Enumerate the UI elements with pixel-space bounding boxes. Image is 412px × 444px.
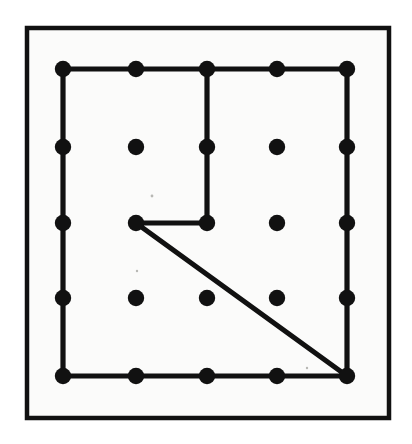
peg-r3c3[interactable] (199, 215, 215, 231)
speck-1 (151, 195, 154, 198)
peg-r1c5[interactable] (339, 61, 355, 77)
peg-r4c2[interactable] (128, 290, 144, 306)
speck-3 (306, 367, 308, 369)
peg-r3c2[interactable] (128, 215, 144, 231)
peg-r4c3[interactable] (199, 290, 215, 306)
peg-r5c3[interactable] (199, 368, 215, 384)
peg-r2c3[interactable] (199, 139, 215, 155)
page-root: Geoboard polygon figure A 5 by 5 array o… (0, 0, 412, 444)
peg-r2c2[interactable] (128, 139, 144, 155)
geoboard-figure (0, 0, 412, 444)
peg-r3c4[interactable] (269, 215, 285, 231)
peg-r1c4[interactable] (269, 61, 285, 77)
speck-2 (136, 270, 138, 272)
peg-r2c5[interactable] (339, 139, 355, 155)
peg-r1c1[interactable] (55, 61, 71, 77)
peg-r3c1[interactable] (55, 215, 71, 231)
peg-r5c2[interactable] (128, 368, 144, 384)
peg-r4c1[interactable] (55, 290, 71, 306)
peg-r5c4[interactable] (269, 368, 285, 384)
peg-r1c2[interactable] (128, 61, 144, 77)
peg-r1c3[interactable] (199, 61, 215, 77)
peg-r4c4[interactable] (269, 290, 285, 306)
peg-r2c4[interactable] (269, 139, 285, 155)
peg-r5c1[interactable] (55, 368, 71, 384)
peg-r4c5[interactable] (339, 290, 355, 306)
peg-r3c5[interactable] (339, 215, 355, 231)
peg-r2c1[interactable] (55, 139, 71, 155)
peg-r5c5[interactable] (339, 368, 355, 384)
